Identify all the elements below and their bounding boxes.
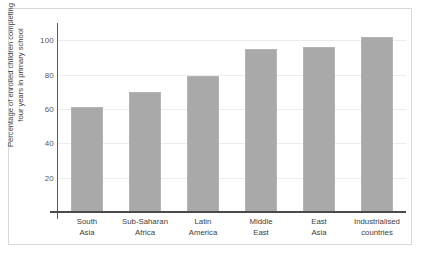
bar xyxy=(303,47,335,212)
chart-frame: Percentage of enrolled children completi… xyxy=(8,8,412,245)
plot-area xyxy=(58,23,406,212)
y-axis-tick-label: 20 xyxy=(45,173,54,182)
y-axis-tick-label: 60 xyxy=(45,104,54,113)
bar xyxy=(361,37,393,212)
bar xyxy=(245,49,277,212)
x-axis-category-label: Industrialisedcountries xyxy=(340,217,414,238)
gridline xyxy=(58,109,406,110)
y-axis-title-line-1: Percentage of enrolled children completi… xyxy=(6,0,16,178)
gridline xyxy=(58,143,406,144)
bar xyxy=(71,107,103,212)
y-axis-tick-labels: 20406080100 xyxy=(23,23,54,212)
gridline xyxy=(58,40,406,41)
bar xyxy=(187,76,219,212)
x-axis-category-label-line: countries xyxy=(340,228,414,239)
bar xyxy=(129,92,161,212)
x-axis-category-label-line: Industrialised xyxy=(340,217,414,228)
y-axis-tick-label: 100 xyxy=(40,36,54,45)
gridline xyxy=(58,178,406,179)
gridline xyxy=(58,75,406,76)
y-axis-tick-label: 80 xyxy=(45,70,54,79)
y-axis-tick-label: 40 xyxy=(45,139,54,148)
x-axis-line xyxy=(50,211,406,213)
